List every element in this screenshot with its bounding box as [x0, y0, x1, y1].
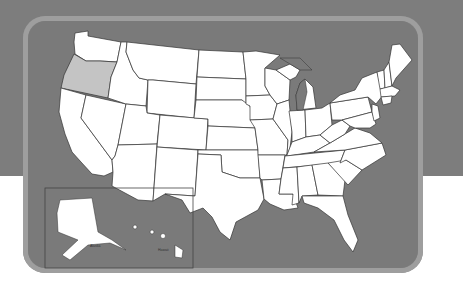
- state-new-mexico[interactable]: [153, 147, 198, 201]
- state-connecticut[interactable]: [381, 96, 392, 105]
- state-maine[interactable]: [389, 44, 412, 86]
- hawaii-label: Hawaii: [158, 248, 169, 252]
- state-colorado[interactable]: [157, 115, 208, 150]
- us-map: Alaska Hawaii: [0, 0, 463, 287]
- state-kansas[interactable]: [206, 126, 258, 150]
- state-arkansas[interactable]: [258, 155, 285, 180]
- island-hawaii-kauai: [133, 225, 137, 229]
- state-iowa[interactable]: [246, 95, 277, 120]
- island-hawaii-maui: [161, 234, 166, 239]
- state-new-jersey[interactable]: [372, 104, 380, 121]
- state-florida[interactable]: [302, 196, 358, 252]
- state-washington[interactable]: [74, 31, 121, 62]
- state-hawaii[interactable]: [175, 245, 183, 258]
- state-north-dakota[interactable]: [197, 50, 246, 79]
- alaska-label: Alaska: [90, 244, 101, 248]
- island-hawaii-oahu: [150, 230, 154, 234]
- state-wyoming[interactable]: [147, 80, 196, 118]
- state-arizona[interactable]: [112, 144, 157, 201]
- state-alaska[interactable]: [57, 198, 126, 260]
